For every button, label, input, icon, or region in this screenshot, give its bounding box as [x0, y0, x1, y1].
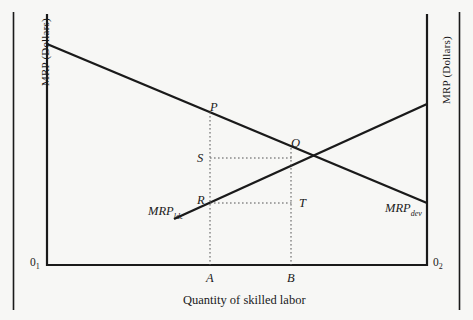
point-label-r: R: [197, 194, 205, 207]
x-tick-label-a: A: [206, 272, 214, 285]
right-axis-title: MRP (Dollars): [441, 36, 452, 104]
figure-canvas: [0, 0, 473, 320]
mrp-dev-text: MRP: [385, 201, 411, 215]
right-origin-subscript: 2: [439, 262, 443, 271]
mrp-ldc-label: MRPldc: [148, 205, 183, 221]
x-axis-title: Quantity of skilled labor: [183, 294, 306, 307]
mrp-dev-subscript: dev: [411, 209, 422, 218]
left-axis-title: MRP (Dollars): [40, 18, 51, 86]
left-origin-label: 01: [30, 257, 40, 271]
point-label-q: Q: [291, 137, 300, 150]
mrp-labor-market-figure: MRP (Dollars) MRP (Dollars) 01 02 MRPldc…: [0, 0, 473, 320]
mrp-ldc-curve: [47, 44, 427, 203]
mrp-ldc-subscript: ldc: [174, 212, 184, 221]
right-origin-label: 02: [433, 257, 443, 271]
point-label-s: S: [197, 152, 203, 165]
point-label-t: T: [299, 197, 306, 210]
mrp-dev-label: MRPdev: [385, 202, 422, 218]
point-label-p: P: [210, 101, 218, 114]
mrp-ldc-text: MRP: [148, 204, 174, 218]
left-origin-subscript: 1: [36, 262, 40, 271]
x-tick-label-b: B: [287, 272, 295, 285]
